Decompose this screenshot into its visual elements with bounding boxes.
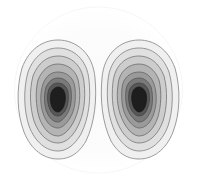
- right-contour-level-7: [132, 87, 147, 112]
- left-contour-level-7: [50, 87, 65, 112]
- left-lobe-contours: [18, 40, 96, 159]
- contour-plot-canvas: Two-lobed scalar field rendered as neste…: [0, 0, 197, 180]
- contour-figure: Two-lobed scalar field rendered as neste…: [0, 0, 197, 180]
- right-lobe-contours: [101, 40, 179, 159]
